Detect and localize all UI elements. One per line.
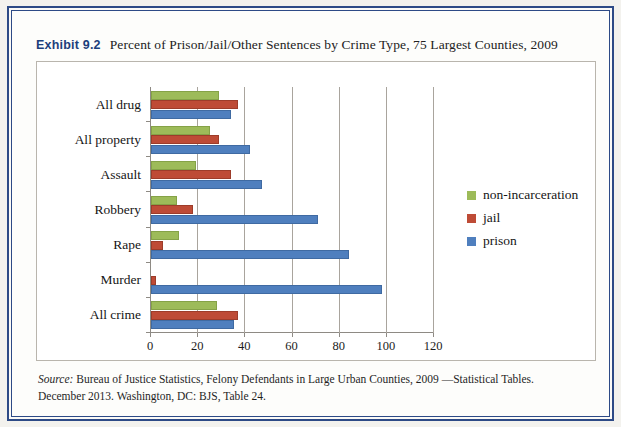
exhibit-content: Exhibit 9.2Percent of Prison/Jail/Other …	[14, 13, 607, 414]
chart-bar	[151, 311, 238, 320]
legend-swatch-icon	[467, 214, 476, 223]
legend-label: jail	[483, 210, 500, 226]
chart-bar	[151, 205, 193, 214]
legend-swatch-icon	[467, 237, 476, 246]
chart-bar	[151, 100, 238, 109]
x-axis-tick	[244, 333, 245, 337]
chart-bar	[151, 135, 219, 144]
chart-category-group: All crime	[150, 298, 433, 333]
chart-bar	[151, 276, 156, 285]
legend-item: non-incarceration	[467, 187, 587, 203]
x-axis-tick-label: 20	[191, 339, 204, 354]
chart-plot-area: 020406080100120All drugAll propertyAssau…	[150, 87, 433, 333]
source-text: Bureau of Justice Statistics, Felony Def…	[38, 373, 534, 402]
x-axis-tick	[433, 333, 434, 337]
chart-bar	[151, 126, 210, 135]
chart-category-group: Assault	[150, 157, 433, 192]
chart-bar	[151, 250, 349, 259]
y-axis-category-label: Robbery	[95, 202, 142, 218]
x-axis-tick-label: 40	[238, 339, 251, 354]
x-axis-tick-label: 60	[285, 339, 298, 354]
y-axis-category-label: Rape	[113, 237, 141, 253]
y-axis-category-label: All property	[75, 132, 141, 148]
chart-category-group: All drug	[150, 87, 433, 122]
chart-bar	[151, 91, 219, 100]
legend-item: jail	[467, 210, 587, 226]
chart-category-group: Robbery	[150, 192, 433, 227]
chart-bar	[151, 285, 382, 294]
chart-bar	[151, 180, 262, 189]
chart-bar	[151, 196, 177, 205]
y-axis-category-label: All drug	[96, 97, 141, 113]
x-axis-tick-label: 80	[332, 339, 345, 354]
chart-legend: non-incarcerationjailprison	[467, 187, 587, 256]
x-axis-tick	[197, 333, 198, 337]
chart-bar	[151, 161, 196, 170]
chart-bar	[151, 241, 163, 250]
x-axis-tick-label: 120	[424, 339, 443, 354]
exhibit-number: Exhibit 9.2	[36, 38, 101, 52]
source-note: Source: Bureau of Justice Statistics, Fe…	[38, 371, 577, 406]
legend-label: non-incarceration	[483, 187, 578, 203]
x-axis-tick	[292, 333, 293, 337]
chart-bar	[151, 215, 318, 224]
x-axis-tick-label: 100	[376, 339, 395, 354]
chart-bar	[151, 145, 250, 154]
chart-category-group: Rape	[150, 228, 433, 263]
legend-label: prison	[483, 233, 517, 249]
chart-bar	[151, 301, 217, 310]
chart-bar	[151, 320, 234, 329]
chart-bar	[151, 170, 231, 179]
chart-category-group: Murder	[150, 263, 433, 298]
x-axis-tick	[339, 333, 340, 337]
exhibit-page: Exhibit 9.2Percent of Prison/Jail/Other …	[0, 0, 621, 427]
x-axis-tick-label: 0	[147, 339, 153, 354]
chart-bar	[151, 231, 179, 240]
y-axis-category-label: All crime	[90, 307, 141, 323]
x-axis-tick	[386, 333, 387, 337]
source-prefix: Source:	[38, 373, 73, 385]
x-gridline	[433, 87, 434, 333]
chart-bar	[151, 110, 231, 119]
exhibit-title-row: Exhibit 9.2Percent of Prison/Jail/Other …	[36, 35, 589, 53]
chart-category-group: All property	[150, 122, 433, 157]
y-axis-category-label: Assault	[101, 167, 142, 183]
x-axis-tick	[150, 333, 151, 337]
chart-panel: 020406080100120All drugAll propertyAssau…	[36, 61, 596, 361]
legend-swatch-icon	[467, 191, 476, 200]
y-axis-tick	[146, 332, 150, 333]
y-axis-category-label: Murder	[101, 272, 142, 288]
exhibit-title: Percent of Prison/Jail/Other Sentences b…	[110, 37, 558, 52]
legend-item: prison	[467, 233, 587, 249]
